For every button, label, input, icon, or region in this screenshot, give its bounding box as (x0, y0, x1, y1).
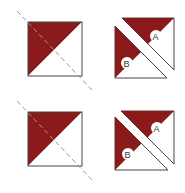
row1-step1-square (17, 11, 92, 90)
row2-step1-square (17, 101, 92, 180)
label-a: A (154, 124, 160, 134)
row2-step2-pieces: A B (115, 111, 174, 170)
label-a: A (153, 32, 159, 42)
label-b: B (125, 150, 131, 160)
row1-step2-pieces: A B (115, 18, 174, 78)
label-b: B (124, 59, 130, 69)
diagram-canvas: A B A B (0, 0, 185, 193)
